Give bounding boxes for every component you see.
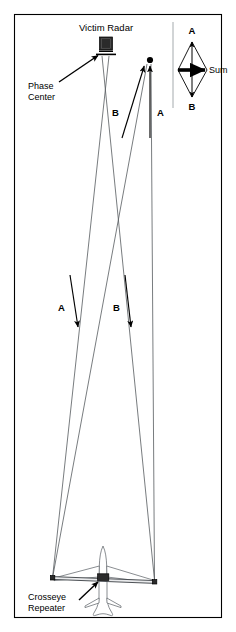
vector-label-a: A	[189, 25, 196, 36]
vector-label-b: B	[189, 101, 196, 112]
label-down-a: A	[58, 302, 65, 313]
label-up-a: A	[157, 107, 164, 118]
label-up-b: B	[112, 107, 119, 118]
target-dot-icon	[147, 57, 153, 63]
page-title: Victim Radar	[79, 22, 133, 33]
phase-center-label-line1: Phase	[28, 81, 54, 91]
repeater-box-icon	[98, 574, 109, 581]
phase-center-label-line2: Center	[28, 92, 55, 102]
diagram-canvas: Victim Radar Phase Center B A A B	[0, 0, 236, 632]
label-down-b: B	[113, 302, 120, 313]
vector-label-sum: Sum	[209, 65, 228, 75]
figure-crosseye-jamming-diagram: Victim Radar Phase Center B A A B	[0, 0, 236, 632]
left-wingtip-antenna	[50, 576, 54, 580]
crosseye-repeater-label-line1: Crosseye	[28, 592, 66, 602]
right-wingtip-antenna	[152, 580, 156, 584]
crosseye-repeater-label-line2: Repeater	[28, 603, 65, 613]
